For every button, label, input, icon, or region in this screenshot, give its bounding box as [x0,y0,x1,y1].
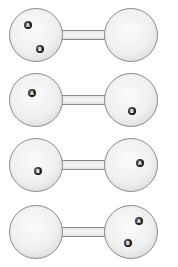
left-bulb [9,73,63,127]
left-bulb [9,205,63,259]
particle-a: A [136,159,144,167]
arrangement-1: A B [0,2,178,68]
right-bulb [104,73,158,127]
arrangement-3: B A [0,133,178,199]
particle-b: B [34,167,42,175]
left-bulb [9,8,63,62]
left-bulb [9,138,63,192]
connecting-tube [58,160,110,170]
connecting-tube [58,227,110,237]
particle-b: B [36,45,44,53]
connecting-tube [58,95,110,105]
right-bulb [104,8,158,62]
particle-a: A [135,217,143,225]
particle-a: A [28,89,36,97]
right-bulb [104,205,158,259]
particle-b: B [124,239,132,247]
particle-b: B [128,107,136,115]
particle-a: A [24,21,32,29]
right-bulb [104,138,158,192]
arrangement-4: A B [0,199,178,265]
arrangement-2: A B [0,67,178,133]
connecting-tube [58,30,110,40]
